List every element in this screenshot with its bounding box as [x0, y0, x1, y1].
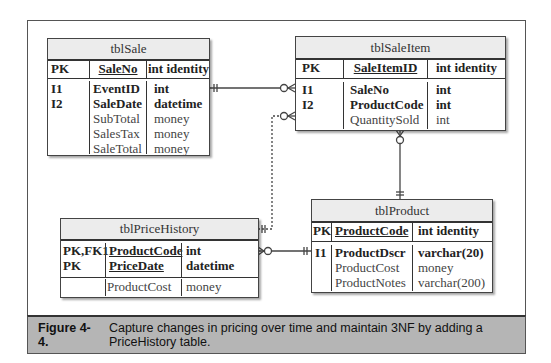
pk-rows: PK,FK1 PK ProductCode PriceDate int date… — [61, 241, 258, 278]
field-type: money — [154, 126, 206, 141]
field-type: int identity — [427, 60, 505, 78]
field-name: SaleDate — [93, 96, 143, 111]
field-type: datetime — [186, 258, 255, 273]
key-column: I1 — [312, 245, 331, 291]
figure-caption: Figure 4-4. Capture changes in pricing o… — [27, 315, 526, 354]
table-title: tblPriceHistory — [61, 219, 258, 241]
field-column: EventID SaleDate SubTotal SalesTax SaleT… — [89, 81, 146, 154]
table-title: tblSaleItem — [296, 37, 505, 60]
table-title: tblSale — [48, 39, 209, 61]
field-name: ProductCode — [331, 223, 412, 241]
table-tblsaleitem: tblSaleItem PK SaleItemID int identity I… — [295, 36, 506, 131]
body-rows: I1 ProductDscr ProductCost ProductNotes … — [312, 242, 492, 291]
pk-row: PK ProductCode int identity — [312, 223, 492, 242]
table-tblpricehistory: tblPriceHistory PK,FK1 PK ProductCode Pr… — [60, 218, 259, 298]
figure-caption-text: Capture changes in pricing over time and… — [109, 321, 525, 349]
rel-product-saleitem — [396, 130, 404, 199]
field-type: int identity — [146, 61, 209, 78]
key-column — [61, 279, 105, 296]
key-label: PK — [312, 223, 331, 241]
field-type: money — [418, 260, 489, 275]
rel-sale-saleitem — [209, 84, 295, 92]
field-type: int — [436, 112, 502, 127]
field-type: varchar(20) — [418, 245, 489, 260]
field-name: SaleTotal — [93, 141, 143, 156]
field-name: PriceDate — [109, 258, 178, 273]
field-column: SaleNo ProductCode QuantitySold — [343, 82, 427, 129]
field-name: SaleItemID — [343, 60, 427, 78]
table-tblproduct: tblProduct PK ProductCode int identity I… — [311, 199, 493, 293]
field-name: EventID — [93, 81, 143, 96]
field-type: int — [186, 243, 255, 258]
type-column: int datetime money money money — [146, 81, 209, 154]
body-rows: ProductCost money — [61, 278, 258, 296]
pk-row: PK SaleNo int identity — [48, 61, 209, 79]
type-column: varchar(20) money varchar(200) — [412, 245, 492, 291]
rel-product-pricehistory — [258, 247, 311, 255]
type-column: int int int — [427, 82, 505, 129]
key-column: I1 I2 — [296, 82, 343, 129]
field-name: ProductCost — [335, 260, 409, 275]
field-name: ProductCost — [105, 279, 181, 296]
field-name: SalesTax — [93, 126, 143, 141]
table-tblsale: tblSale PK SaleNo int identity I1 I2 Eve… — [47, 38, 210, 156]
field-type: int — [436, 97, 502, 112]
field-type: datetime — [154, 96, 206, 111]
field-name: ProductDscr — [335, 245, 409, 260]
key-label: PK — [48, 61, 89, 78]
type-column: int datetime — [181, 243, 258, 277]
field-type: int identity — [412, 223, 492, 241]
field-type: varchar(200) — [418, 275, 489, 290]
field-name: SaleNo — [89, 61, 146, 78]
key-column: I1 I2 — [48, 81, 89, 154]
key-column: PK,FK1 PK — [61, 243, 105, 277]
field-type: money — [181, 279, 258, 296]
table-title: tblProduct — [312, 200, 492, 223]
figure-label: Figure 4-4. — [38, 321, 93, 349]
field-column: ProductDscr ProductCost ProductNotes — [331, 245, 412, 291]
body-rows: I1 I2 EventID SaleDate SubTotal SalesTax… — [48, 79, 209, 154]
field-type: money — [154, 111, 206, 126]
field-column: ProductCode PriceDate — [105, 243, 181, 277]
field-type: money — [154, 141, 206, 156]
key-label: PK — [296, 60, 343, 78]
field-name: SubTotal — [93, 111, 143, 126]
field-name: ProductCode — [109, 243, 178, 258]
field-name: SaleNo — [350, 82, 424, 97]
field-name: ProductNotes — [335, 275, 409, 290]
field-name: QuantitySold — [350, 112, 424, 127]
rel-pricehistory-saleitem — [258, 112, 295, 233]
field-name: ProductCode — [350, 97, 424, 112]
field-type: int — [154, 81, 206, 96]
field-type: int — [436, 82, 502, 97]
pk-row: PK SaleItemID int identity — [296, 60, 505, 79]
body-rows: I1 I2 SaleNo ProductCode QuantitySold in… — [296, 79, 505, 129]
